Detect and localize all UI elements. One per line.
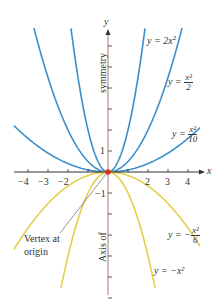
equation-label-neg-sixth: y = −x²6 <box>168 226 200 245</box>
x-tick-label: 4 <box>185 176 190 187</box>
y-axis-arrow-icon <box>106 29 111 35</box>
vertex-annotation-line2: origin <box>24 247 48 257</box>
y-tick-label: −1 <box>95 188 106 199</box>
symmetry-label-bottom: Axis of <box>97 232 108 262</box>
vertex-point <box>105 169 111 175</box>
equation-label-2x2: y = 2x2 <box>147 35 176 46</box>
y-axis-label: y <box>104 17 108 27</box>
x-tick-label: −4 <box>18 176 29 187</box>
parabola-chart <box>0 0 219 305</box>
x-tick-label: 3 <box>165 176 170 187</box>
y-tick-label: 1 <box>100 145 105 156</box>
equation-label-half: y = x²2 <box>168 73 193 92</box>
symmetry-label-top: symmetry <box>97 53 108 93</box>
vertex-annotation-line1: Vertex at <box>24 234 60 244</box>
x-tick-label: −3 <box>38 176 49 187</box>
x-tick-label: −2 <box>58 176 69 187</box>
equation-label-neg-x2: y = −x² <box>154 266 184 276</box>
x-tick-label: 2 <box>145 176 150 187</box>
equation-label-tenth: y = x²10 <box>172 125 197 144</box>
x-axis-arrow-icon <box>199 170 205 175</box>
x-axis-label: x <box>207 166 211 176</box>
